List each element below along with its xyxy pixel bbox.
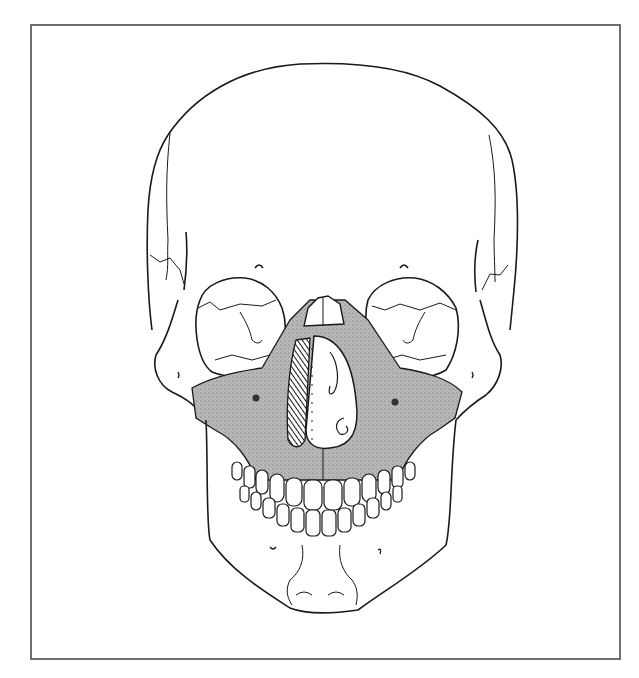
- cranium: [147, 63, 517, 330]
- zygomatic-right: [456, 300, 501, 420]
- mental-protuberance: [287, 545, 357, 605]
- skull-illustration: [0, 0, 639, 678]
